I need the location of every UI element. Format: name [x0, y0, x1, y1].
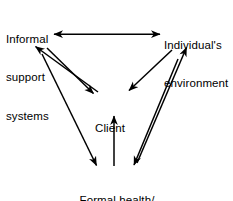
- diagram-canvas: Informal support systems Individual's en…: [0, 0, 233, 201]
- node-formal-health-social-services-system: Formal health/ social services system: [44, 168, 190, 201]
- node-individual-line-1: Individual's: [164, 39, 228, 52]
- node-individual-line-2: environment: [164, 77, 228, 90]
- node-informal-support-systems: Informal support systems: [6, 7, 49, 149]
- edge-informal-client: [47, 48, 94, 94]
- node-individual-environment: Individual's environment: [164, 13, 228, 116]
- node-client-line-1: Client: [95, 122, 125, 135]
- node-informal-line-2: support: [6, 71, 49, 84]
- node-informal-line-1: Informal: [6, 33, 49, 46]
- node-client: Client: [95, 96, 125, 160]
- node-formal-line-1: Formal health/: [44, 194, 190, 201]
- node-informal-line-3: systems: [6, 110, 49, 123]
